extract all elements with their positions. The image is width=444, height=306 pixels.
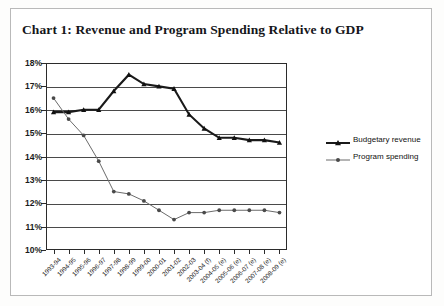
x-tick-mark [99, 250, 100, 254]
series-line-2 [54, 98, 280, 220]
x-tick-mark [69, 250, 70, 254]
x-tick-mark [234, 250, 235, 254]
data-point-marker [263, 208, 267, 212]
data-point-marker [157, 208, 161, 212]
data-point-marker [232, 208, 236, 212]
y-tick-label: 10% [4, 245, 42, 255]
data-point-marker [82, 134, 86, 138]
x-tick-mark [219, 250, 220, 254]
series-line-1 [54, 75, 280, 143]
y-tick-label: 14% [4, 152, 42, 162]
legend-item-label: Program spending [353, 152, 418, 161]
x-tick-mark [84, 250, 85, 254]
y-tick-label: 18% [4, 58, 42, 68]
legend-item-1[interactable]: Budgetary revenue [325, 132, 433, 146]
data-point-marker [52, 96, 56, 100]
x-tick-mark [159, 250, 160, 254]
x-tick-mark [114, 250, 115, 254]
legend-line-triangle-icon [325, 134, 351, 144]
data-point-marker [126, 72, 131, 77]
data-point-marker [142, 199, 146, 203]
x-tick-mark [279, 250, 280, 254]
y-tick-label: 15% [4, 128, 42, 138]
y-axis: 18%17%16%15%14%13%12%11%10% [0, 63, 42, 251]
x-tick-mark [264, 250, 265, 254]
data-point-marker [112, 190, 116, 194]
chart-legend: Budgetary revenueProgram spending [325, 132, 433, 166]
x-tick-mark [204, 250, 205, 254]
x-tick-mark [174, 250, 175, 254]
x-tick-mark [144, 250, 145, 254]
x-axis: 1993-941994-951995-961996-971997-981998-… [46, 250, 288, 304]
legend-item-label: Budgetary revenue [353, 135, 421, 144]
data-point-marker [217, 208, 221, 212]
data-point-marker [97, 159, 101, 163]
x-tick-mark [129, 250, 130, 254]
legend-item-2[interactable]: Program spending [325, 149, 433, 163]
data-point-marker [187, 211, 191, 215]
y-tick-label: 12% [4, 198, 42, 208]
data-point-marker [278, 211, 282, 215]
chart-page: Chart 1: Revenue and Program Spending Re… [0, 0, 444, 306]
y-tick-label: 17% [4, 81, 42, 91]
x-tick-mark [249, 250, 250, 254]
x-tick-mark [189, 250, 190, 254]
data-point-marker [247, 208, 251, 212]
y-tick-label: 11% [4, 222, 42, 232]
data-point-marker [67, 117, 71, 121]
data-point-marker [172, 218, 176, 222]
legend-line-circle-icon [325, 151, 351, 161]
data-point-marker [127, 192, 131, 196]
data-point-marker [202, 211, 206, 215]
y-tick-label: 13% [4, 175, 42, 185]
page-title: Chart 1: Revenue and Program Spending Re… [22, 22, 422, 38]
x-tick-mark [54, 250, 55, 254]
y-tick-label: 16% [4, 105, 42, 115]
series-layer [46, 63, 287, 250]
